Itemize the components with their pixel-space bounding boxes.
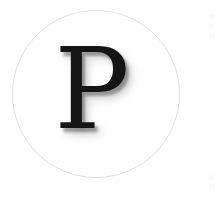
edge-artifact-mark [209,184,215,189]
logo-letter-p: P [54,33,129,145]
edge-artifact-mark [208,24,214,29]
edge-artifact-mark [209,14,215,19]
logo-canvas: P [0,0,221,199]
edge-artifact-mark [208,175,214,180]
logo-avatar[interactable]: P [12,10,180,178]
edge-artifact-mark [209,33,215,38]
edge-artifacts [197,0,221,199]
